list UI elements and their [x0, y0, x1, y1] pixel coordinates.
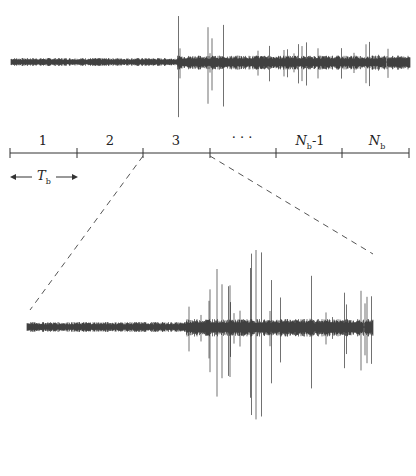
period-label-tb: Tb: [35, 168, 53, 186]
top-waveform: [11, 16, 410, 117]
segment-label-nb-minus-1: Nb-1: [295, 133, 324, 151]
segment-label-3: 3: [172, 133, 180, 148]
segmentation-diagram: 1 2 3 · · · Nb-1 Nb Tb: [0, 0, 416, 476]
segment-label-nb: Nb: [369, 133, 386, 151]
zoom-dashed-lines: [30, 156, 373, 310]
diagram-graphics: [0, 0, 416, 476]
bottom-waveform-zoomed: [27, 250, 373, 419]
segment-label-2: 2: [106, 133, 114, 148]
segment-ellipsis: · · ·: [232, 130, 253, 145]
time-axis: [10, 148, 409, 180]
segment-label-1: 1: [39, 133, 47, 148]
